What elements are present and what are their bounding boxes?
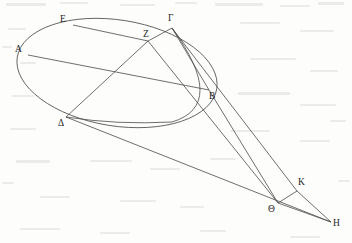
point-label-z: Ζ xyxy=(143,30,149,40)
segment-B-Theta xyxy=(209,90,278,203)
point-label-e: Ε xyxy=(60,15,66,25)
segments-group xyxy=(28,25,331,222)
point-label-theta: Θ xyxy=(268,205,275,215)
main-ellipse xyxy=(9,5,225,141)
point-label-k: Κ xyxy=(298,178,305,188)
point-label-h: Η xyxy=(333,219,340,229)
segment-A-B xyxy=(28,55,209,90)
segment-Theta-H xyxy=(278,203,331,222)
segment-Delta-H xyxy=(66,117,331,222)
segment-Gamma-B xyxy=(172,28,209,90)
point-label-delta: Δ xyxy=(58,119,64,129)
point-label-gamma: Γ xyxy=(168,14,174,24)
segment-E-Z xyxy=(73,25,148,41)
geometry-canvas xyxy=(0,0,352,243)
segment-K-H xyxy=(297,191,331,222)
segment-Delta-Z xyxy=(66,41,148,117)
segment-Theta-K xyxy=(278,191,297,203)
point-label-b: Β xyxy=(209,92,215,102)
segment-Z-Gamma xyxy=(148,28,172,41)
point-label-a: Α xyxy=(15,45,22,55)
geometry-figure: ΑΕΓΖΒΔΘΚΗ xyxy=(0,0,352,243)
